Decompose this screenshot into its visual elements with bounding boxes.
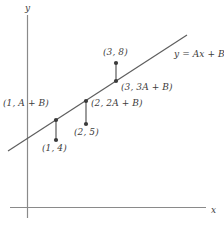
data-point-3-label: (3, 8)	[103, 48, 128, 57]
data-point-1	[54, 138, 58, 142]
figure-canvas	[0, 0, 224, 225]
line-point-2	[84, 99, 88, 103]
line-point-2-label: (2, 2A + B)	[91, 99, 143, 108]
data-point-2-label: (2, 5)	[74, 128, 99, 137]
line-point-1-label: (1, A + B)	[3, 99, 49, 108]
data-point-1-label: (1, 4)	[42, 144, 67, 153]
line-point-1	[54, 118, 58, 122]
line-point-3-label: (3, 3A + B)	[121, 83, 173, 92]
data-point-3	[114, 61, 118, 65]
x-axis-label: x	[211, 206, 216, 215]
line-point-3	[114, 79, 118, 83]
y-axis-label: y	[25, 4, 30, 13]
data-point-2	[84, 122, 88, 126]
line-equation-label: y = Ax + B	[174, 50, 224, 59]
least-squares-line-figure: y x y = Ax + B (1, A + B) (2, 2A + B) (3…	[0, 0, 224, 225]
